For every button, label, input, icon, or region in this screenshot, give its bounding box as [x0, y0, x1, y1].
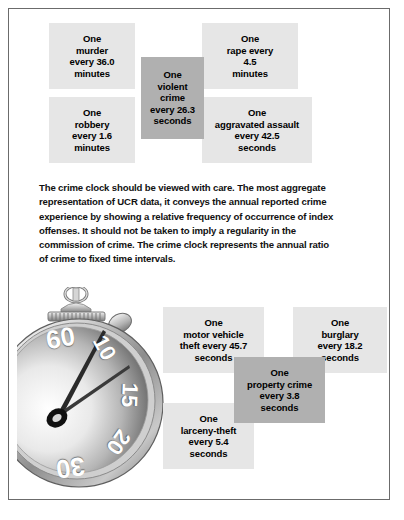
mvtheft-line-2: motor vehicle	[183, 329, 243, 341]
larceny-line-1: One	[199, 413, 217, 425]
stopwatch-stem	[61, 303, 91, 313]
burglary-line-3: every 18.2	[318, 340, 363, 352]
burglary-line-4: seconds	[321, 352, 359, 364]
property-line-1: One	[270, 367, 288, 379]
larceny-line-2: larceny-theft	[181, 425, 237, 437]
stopwatch-bail-icon	[65, 287, 87, 302]
property-line-3: every 3.8	[260, 390, 300, 402]
mvtheft-line-3: theft every 45.7	[180, 340, 248, 352]
stopwatch-illustration: 60 10 15 20 30	[17, 287, 187, 512]
murder-line-2: murder	[76, 45, 108, 57]
assault-line-2: aggravated assault	[215, 119, 299, 131]
crime-clock-figure: One murder every 36.0 minutes One rape e…	[0, 0, 404, 520]
burglary-line-2: burglary	[321, 329, 358, 341]
murder-line-4: minutes	[74, 68, 110, 80]
rape-line-4: minutes	[232, 68, 268, 80]
larceny-line-3: every 5.4	[189, 436, 229, 448]
property-line-4: seconds	[261, 402, 299, 414]
mvtheft-line-1: One	[204, 317, 222, 329]
murder-line-3: every 36.0	[70, 56, 115, 68]
assault-line-4: seconds	[238, 142, 276, 154]
robbery-line-1: One	[83, 107, 101, 119]
property-line-2: property crime	[247, 379, 312, 391]
crime-box-robbery: One robbery every 1.6 minutes	[49, 97, 135, 163]
violent-line-1: One	[163, 69, 181, 81]
burglary-line-1: One	[331, 317, 349, 329]
larceny-line-4: seconds	[190, 448, 228, 460]
rape-line-2: rape every	[227, 45, 274, 57]
crime-box-rape: One rape every 4.5 minutes	[202, 23, 298, 89]
crime-box-murder: One murder every 36.0 minutes	[49, 23, 135, 89]
figure-frame: One murder every 36.0 minutes One rape e…	[8, 8, 390, 500]
robbery-line-4: minutes	[74, 142, 110, 154]
violent-line-5: seconds	[154, 115, 192, 127]
stopwatch-svg	[17, 287, 187, 512]
violent-line-2: violent	[158, 81, 188, 93]
crime-box-aggravated-assault: One aggravated assault every 42.5 second…	[202, 97, 312, 163]
murder-line-1: One	[83, 33, 101, 45]
violent-line-4: every 26.3	[150, 104, 195, 116]
robbery-line-3: every 1.6	[72, 130, 112, 142]
mvtheft-line-4: seconds	[195, 352, 233, 364]
assault-line-3: every 42.5	[235, 130, 280, 142]
robbery-line-2: robbery	[75, 119, 110, 131]
crime-clock-caption: The crime clock should be viewed with ca…	[39, 181, 339, 267]
assault-line-1: One	[248, 107, 266, 119]
crime-box-property-crime-total: One property crime every 3.8 seconds	[234, 357, 325, 423]
crime-box-violent-crime-total: One violent crime every 26.3 seconds	[141, 57, 204, 139]
rape-line-3: 4.5	[244, 56, 257, 68]
rape-line-1: One	[241, 33, 259, 45]
violent-line-3: crime	[160, 92, 185, 104]
